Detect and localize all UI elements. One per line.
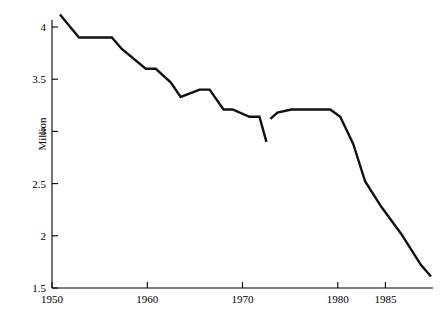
x-tick-label-1960: 1960 bbox=[136, 293, 159, 305]
x-tick-label-1970: 1970 bbox=[232, 293, 255, 305]
y-tick-label-4: 4 bbox=[41, 21, 47, 33]
data-line-segment-1 bbox=[60, 14, 266, 141]
data-line-segment-2 bbox=[270, 109, 431, 276]
y-tick-label-3.5: 3.5 bbox=[32, 73, 46, 85]
line-chart-figure: Million 1.5 2 2.5 3 3.5 4 1950 1960 1970… bbox=[0, 0, 448, 317]
x-tick-label-1950: 1950 bbox=[41, 293, 64, 305]
y-axis-title: Million bbox=[36, 102, 48, 166]
y-tick-label-2: 2 bbox=[41, 230, 47, 242]
y-tick-label-2.5: 2.5 bbox=[32, 178, 46, 190]
x-tick-label-1980: 1980 bbox=[327, 293, 350, 305]
x-tick-label-1985: 1985 bbox=[374, 293, 397, 305]
chart-plot-svg: 1.5 2 2.5 3 3.5 4 1950 1960 1970 1980 19… bbox=[0, 0, 448, 317]
